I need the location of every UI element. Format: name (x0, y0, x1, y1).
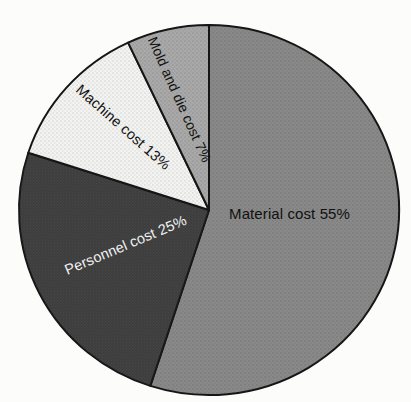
pie-chart-figure: Material cost 55% Personnel cost 25% Mac… (0, 0, 411, 402)
slice-label-material-cost: Material cost 55% (229, 205, 350, 222)
pie-chart-svg: Material cost 55% Personnel cost 25% Mac… (0, 0, 411, 402)
